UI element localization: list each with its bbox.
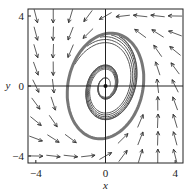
- field-arrow: [170, 47, 181, 56]
- field-arrow: [154, 45, 162, 56]
- field-arrow: [169, 31, 182, 36]
- arrow-shaft: [32, 98, 40, 109]
- field-arrow: [152, 30, 164, 38]
- field-arrow: [156, 114, 159, 128]
- arrow-shaft: [47, 135, 59, 143]
- field-arrow: [84, 10, 92, 21]
- field-arrow: [47, 135, 59, 143]
- arrow-shaft: [171, 63, 179, 74]
- spiral-trajectory: [75, 43, 131, 113]
- field-arrow: [34, 44, 39, 57]
- field-arrow: [138, 149, 143, 162]
- field-arrow: [155, 62, 160, 75]
- field-arrow: [119, 150, 127, 161]
- x-axis-label: x: [102, 179, 108, 191]
- field-arrow: [156, 132, 159, 146]
- y-tick-label: 0: [19, 80, 25, 92]
- field-arrow: [51, 44, 54, 58]
- x-tick-label: −4: [30, 167, 42, 179]
- arrow-shaft: [157, 114, 158, 128]
- field-arrow: [156, 149, 159, 163]
- arrow-shaft: [119, 150, 127, 161]
- field-arrow: [116, 15, 130, 18]
- field-arrow: [133, 14, 147, 17]
- field-arrow: [52, 62, 55, 76]
- field-arrow: [83, 29, 93, 39]
- field-arrow: [81, 154, 95, 157]
- field-arrow: [156, 97, 159, 111]
- field-arrow: [51, 27, 54, 41]
- ticks: −404−404: [12, 10, 178, 179]
- field-arrow: [32, 98, 40, 109]
- field-arrow: [29, 136, 42, 141]
- arrow-shaft: [135, 29, 146, 37]
- field-arrow: [34, 9, 38, 23]
- equilibrium-point: [104, 84, 108, 88]
- field-arrow: [30, 117, 41, 126]
- field-arrow: [68, 45, 74, 58]
- field-arrow: [46, 155, 60, 158]
- arrow-shaft: [53, 44, 54, 58]
- arrow-shaft: [152, 30, 164, 38]
- field-arrow: [33, 62, 38, 75]
- field-arrow: [172, 97, 177, 110]
- field-arrow: [171, 63, 179, 74]
- field-arrow: [51, 97, 56, 110]
- field-arrow: [68, 27, 73, 40]
- arrow-shaft: [118, 134, 128, 144]
- arrow-shaft: [49, 115, 57, 126]
- field-arrow: [138, 115, 144, 128]
- y-axis-label: y: [5, 79, 11, 91]
- field-arrow: [173, 132, 177, 146]
- x-tick-label: 4: [172, 167, 178, 179]
- y-tick-label: 4: [19, 10, 25, 22]
- field-arrow: [34, 27, 38, 41]
- field-arrow: [65, 134, 76, 142]
- arrow-shaft: [83, 29, 93, 39]
- phase-portrait-chart: −404−404 x y: [0, 0, 185, 193]
- field-arrow: [138, 132, 143, 145]
- y-tick-label: −4: [12, 150, 24, 162]
- arrow-shaft: [154, 45, 162, 56]
- arrow-shaft: [84, 10, 92, 21]
- field-arrow: [64, 155, 78, 158]
- field-arrow: [168, 14, 182, 17]
- field-arrow: [135, 29, 146, 37]
- field-arrow: [52, 9, 55, 23]
- field-arrow: [151, 14, 165, 17]
- field-arrow: [118, 134, 128, 144]
- field-arrow: [173, 114, 178, 127]
- field-arrow: [49, 115, 57, 126]
- field-arrow: [68, 9, 73, 22]
- arrow-shaft: [65, 134, 76, 142]
- x-tick-label: 0: [103, 167, 109, 179]
- arrow-shaft: [170, 47, 181, 56]
- arrow-shaft: [30, 117, 41, 126]
